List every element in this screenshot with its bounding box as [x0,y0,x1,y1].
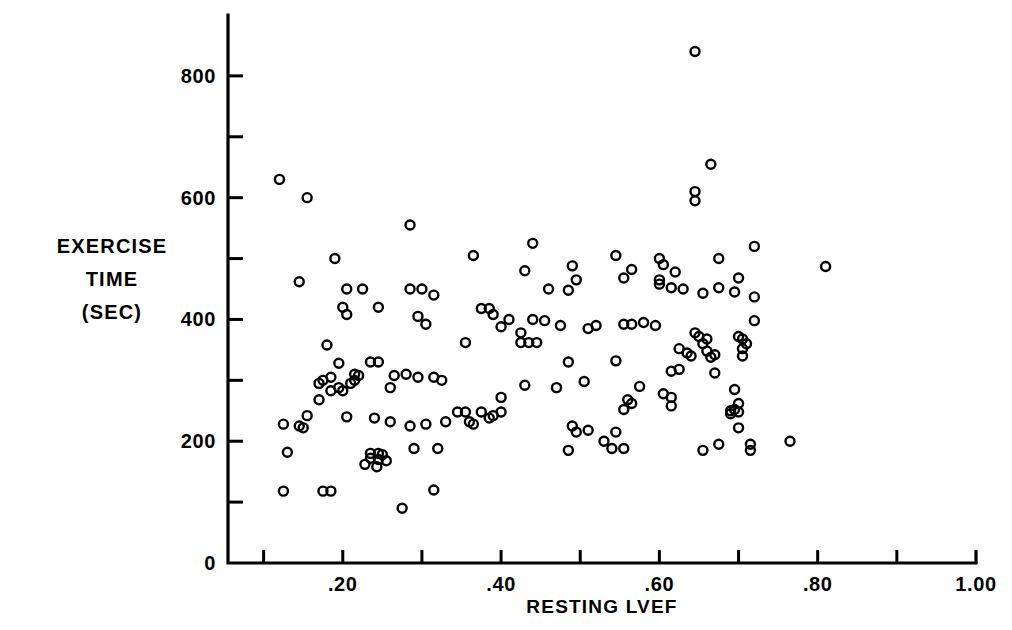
data-point [421,320,430,329]
data-point [552,383,561,392]
data-point [528,239,537,248]
data-point [520,381,529,390]
y-tick-label: 800 [181,65,216,87]
data-point [611,251,620,260]
data-point [520,266,529,275]
data-point [639,318,648,327]
data-point [390,371,399,380]
data-point [564,286,573,295]
data-point [821,262,830,271]
y-axis-title-line: EXERCISE [57,235,168,257]
data-point [635,382,644,391]
data-point [619,444,628,453]
data-point [611,356,620,365]
x-tick-label: .20 [328,573,358,595]
data-point [746,446,755,455]
y-tick-label: 600 [181,187,216,209]
data-point [698,446,707,455]
data-point [730,385,739,394]
data-point [627,265,636,274]
data-point [410,444,419,453]
data-point [370,414,379,423]
data-point [441,417,450,426]
data-point [386,417,395,426]
data-point [611,428,620,437]
data-point [544,285,553,294]
data-point [322,341,331,350]
data-point [730,288,739,297]
data-point [421,420,430,429]
data-point [580,377,589,386]
data-point [599,437,608,446]
data-point [330,254,339,263]
data-point [750,242,759,251]
data-point [619,274,628,283]
data-point [429,485,438,494]
x-tick-label: .80 [803,573,833,595]
data-point [406,285,415,294]
data-point [497,322,506,331]
data-point [698,289,707,298]
data-point [568,261,577,270]
y-tick-label: 200 [181,430,216,452]
data-point [564,358,573,367]
y-axis-ticks [228,76,243,502]
data-point [691,196,700,205]
data-point [572,275,581,284]
scatter-plot-figure: .20.40.60.801.00 0200400600800 RESTING L… [0,0,1012,630]
y-axis-tick-labels: 0200400600800 [181,65,216,574]
data-point [714,440,723,449]
x-axis-ticks [264,550,897,563]
data-point [679,285,688,294]
data-point [714,254,723,263]
data-point [710,369,719,378]
scatter-data-points [275,47,830,513]
data-point [275,175,284,184]
data-point [334,359,343,368]
data-point [734,274,743,283]
data-point [429,291,438,300]
data-point [303,411,312,420]
data-point [402,370,411,379]
data-point [315,395,324,404]
data-point [691,47,700,56]
data-point [374,303,383,312]
data-point [283,448,292,457]
data-point [469,251,478,260]
data-point [750,292,759,301]
data-point [497,408,506,417]
data-point [714,283,723,292]
y-tick-label: 400 [181,308,216,330]
data-point [619,405,628,414]
data-point [461,338,470,347]
data-point [750,316,759,325]
x-tick-label: .40 [486,573,516,595]
data-point [386,383,395,392]
data-point [342,412,351,421]
data-point [433,444,442,453]
data-point [358,285,367,294]
data-point [295,277,304,286]
data-point [785,437,794,446]
data-point [279,420,288,429]
data-point [413,373,422,382]
data-point [279,487,288,496]
y-axis-title: EXERCISETIME(SEC) [57,235,168,323]
x-tick-label: .60 [645,573,675,595]
y-tick-label: 0 [204,552,216,574]
data-point [706,160,715,169]
data-point [540,316,549,325]
x-axis-tick-labels: .20.40.60.801.00 [328,573,997,595]
data-point [516,328,525,337]
data-point [691,187,700,196]
y-axis-title-line: TIME [86,268,139,290]
data-point [406,221,415,230]
data-point [413,312,422,321]
data-point [667,283,676,292]
data-point [734,423,743,432]
axis-lines [228,15,976,563]
data-point [584,426,593,435]
data-point [303,193,312,202]
data-point [497,393,506,402]
data-point [556,321,565,330]
